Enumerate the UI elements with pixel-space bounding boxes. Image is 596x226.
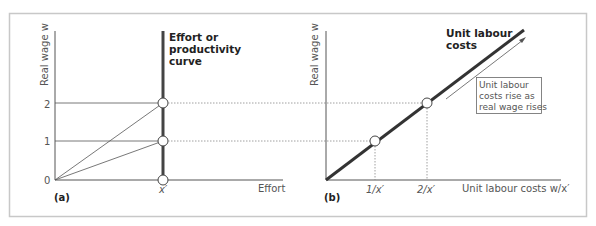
annotation-line-3: real wage rises [479, 102, 547, 112]
panel-b-point-1 [370, 136, 380, 146]
panel-a-y-tick-2: 2 [44, 99, 50, 110]
annotation-line-1: Unit labour [479, 80, 529, 90]
panel-a-point-w2 [158, 98, 168, 108]
panel-a-y-tick-0: 0 [44, 175, 50, 186]
effort-curve-label-1: Effort or [169, 31, 219, 43]
panel-a-y-axis-label: Real wage w [39, 23, 50, 86]
figure: Real wage w 2 1 0 Effort or productivity… [0, 0, 596, 226]
panel-a-x-axis-label: Effort [258, 183, 285, 194]
panel-a-x-tick: x′ [158, 184, 168, 195]
effort-curve-label-2: productivity [169, 43, 241, 55]
unit-labour-costs-label-1: Unit labour [446, 27, 513, 39]
panel-b-x-axis-label: Unit labour costs w/x′ [462, 183, 570, 194]
panel-b-point-2 [422, 98, 432, 108]
panel-a-point-w1 [158, 136, 168, 146]
annotation-line-2: costs rise as [479, 91, 535, 101]
panel-b-x-tick-2: 2/x′ [417, 184, 436, 195]
effort-curve-label-3: curve [169, 55, 202, 67]
panel-b-y-axis-label: Real wage w [309, 23, 320, 86]
unit-labour-costs-label-2: costs [446, 39, 477, 51]
panel-a-y-tick-1: 1 [44, 136, 50, 147]
panel-a-label: (a) [54, 192, 70, 203]
panel-b-label: (b) [324, 192, 340, 203]
panel-b-x-tick-1: 1/x′ [366, 184, 385, 195]
